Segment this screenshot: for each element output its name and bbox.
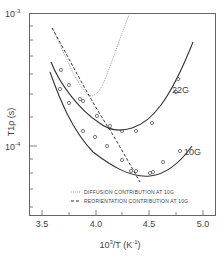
- reorientation-curve: [52, 28, 140, 182]
- y-axis-title: T1ρ (s): [6, 108, 16, 137]
- x-tick-label-4.0: 4.0: [90, 219, 103, 229]
- plot-frame: [30, 14, 216, 216]
- label-10g: 10G: [184, 147, 201, 157]
- x-axis-title: 103/T (K-1): [99, 239, 140, 250]
- label-22g: 22G: [172, 85, 189, 95]
- chart: 10-3 10-4 T1ρ (s) 3.5 4.0 4.5 5.0 103/T …: [0, 0, 224, 257]
- legend-diffusion-label: DIFFUSION CONTRIBUTION AT 10G: [84, 189, 174, 195]
- legend-reorientation-label: REORIENTATION CONTRIBUTION AT 10G: [84, 198, 188, 204]
- x-tick-label-4.5: 4.5: [143, 219, 156, 229]
- legend: DIFFUSION CONTRIBUTION AT 10G REORIENTAT…: [71, 189, 188, 204]
- points-22g: [59, 68, 179, 132]
- x-tick-label-5.0: 5.0: [197, 219, 210, 229]
- diffusion-curve: [53, 15, 129, 96]
- y-minor-ticks: [30, 26, 37, 207]
- x-tick-label-3.5: 3.5: [36, 219, 49, 229]
- x-ticks: [42, 210, 203, 215]
- curve-10g: [50, 72, 192, 176]
- y-tick-label-1e-4: 10-4: [5, 141, 21, 152]
- y-tick-label-1e-3: 10-3: [5, 8, 21, 19]
